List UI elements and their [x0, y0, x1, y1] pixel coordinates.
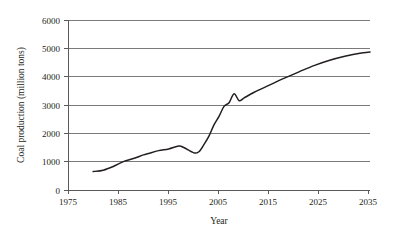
y-tick-label: 1000: [42, 157, 61, 167]
y-tick-label: 3000: [42, 101, 61, 111]
y-axis-title: Coal production (million tons): [16, 47, 27, 163]
x-tick-label: 2015: [259, 197, 278, 207]
x-tick-label: 2025: [309, 197, 328, 207]
x-tick-label: 2005: [209, 197, 228, 207]
x-tick-label: 1985: [109, 197, 128, 207]
x-tick-label: 1995: [159, 197, 178, 207]
coal-production-line-chart: 6000 5000 4000 3000 2000 1000 0 1975 198…: [0, 0, 395, 241]
y-tick-label: 6000: [42, 16, 61, 26]
y-tick-labels: 6000 5000 4000 3000 2000 1000 0: [42, 16, 61, 196]
x-tick-label: 1975: [59, 197, 78, 207]
chart-figure: 6000 5000 4000 3000 2000 1000 0 1975 198…: [0, 0, 395, 241]
series-line-coal-production: [93, 52, 370, 172]
x-tick-label: 2035: [359, 197, 378, 207]
y-tick-label: 5000: [42, 44, 61, 54]
y-tick-label: 2000: [42, 129, 61, 139]
x-tick-labels: 1975 1985 1995 2005 2015 2025 2035: [59, 197, 378, 207]
y-tickmarks: [64, 20, 68, 190]
gridlines: [68, 20, 370, 162]
x-axis-title: Year: [210, 216, 228, 226]
y-tick-label: 4000: [42, 72, 61, 82]
y-tick-label: 0: [56, 186, 61, 196]
x-tickmarks: [68, 190, 368, 194]
